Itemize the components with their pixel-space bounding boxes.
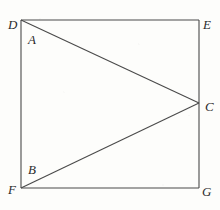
segment-DC: [21, 20, 199, 103]
vertex-label-D: D: [8, 18, 17, 31]
cevian-lines: [21, 20, 199, 188]
geometry-figure: D E C F G A B: [0, 0, 220, 210]
vertex-label-F: F: [8, 183, 16, 196]
square-outline: [21, 20, 199, 188]
vertex-label-C: C: [205, 100, 214, 113]
vertex-label-G: G: [202, 185, 211, 198]
vertex-label-E: E: [203, 18, 211, 31]
point-label-B: B: [28, 163, 36, 176]
segment-FC: [21, 103, 199, 188]
point-label-A: A: [28, 33, 36, 46]
